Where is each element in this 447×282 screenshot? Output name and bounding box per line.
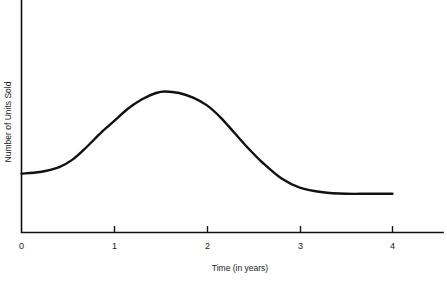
- x-tick-label-3: 3: [298, 241, 303, 251]
- axis-lines: [22, 0, 444, 233]
- x-tick-label-4: 4: [390, 241, 395, 251]
- x-axis-tick-labels: 0 1 2 3 4: [19, 241, 395, 251]
- chart-figure: 0 1 2 3 4 Time (in years) Number of Unit…: [0, 0, 447, 282]
- line-chart-canvas: 0 1 2 3 4 Time (in years) Number of Unit…: [0, 0, 447, 282]
- x-axis-title: Time (in years): [212, 263, 269, 273]
- axes-group: [22, 0, 444, 233]
- x-tick-label-0: 0: [19, 241, 24, 251]
- data-series-curve: [22, 91, 393, 193]
- y-axis-title: Number of Units Sold: [3, 81, 13, 162]
- x-tick-label-1: 1: [112, 241, 117, 251]
- x-tick-label-2: 2: [205, 241, 210, 251]
- x-axis-tick-marks: [115, 226, 393, 232]
